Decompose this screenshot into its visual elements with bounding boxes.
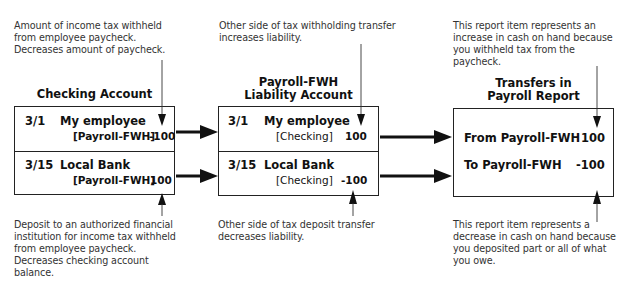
- pointer-note-cash-increase: [593, 66, 601, 128]
- arrow-liability-to-report-row0: [380, 130, 452, 144]
- pointer-note-cash-decrease: [593, 190, 601, 222]
- arrow-checking-to-liability-row1: [176, 169, 218, 183]
- connector-arrows: [0, 0, 625, 282]
- pointer-note-withholding: [158, 60, 166, 126]
- pointer-note-deposit: [158, 193, 166, 216]
- arrow-liability-to-report-row1: [380, 169, 452, 183]
- pointer-note-liability-decrease: [349, 190, 357, 216]
- pointer-note-liability-increase: [357, 44, 365, 126]
- arrow-checking-to-liability-row0: [176, 125, 218, 139]
